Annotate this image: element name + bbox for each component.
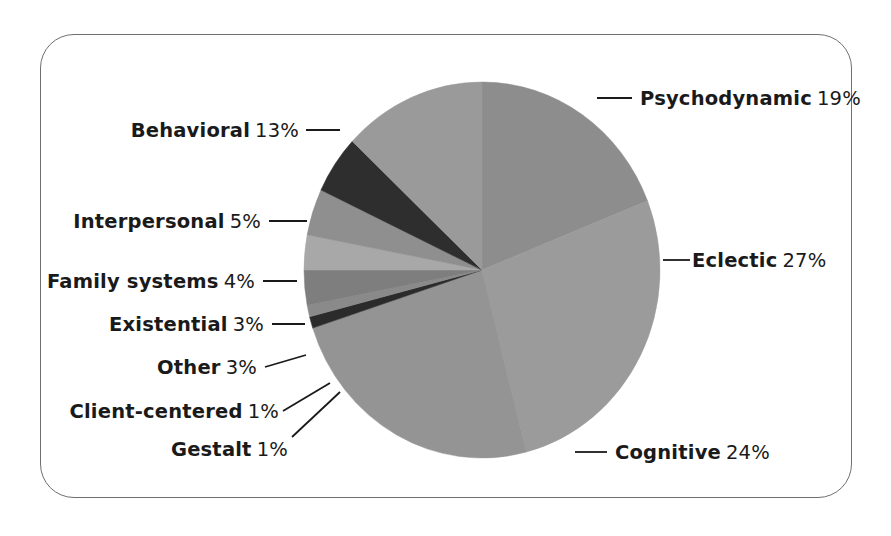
label-client-centered-name: Client-centered xyxy=(69,400,242,423)
label-interpersonal-pct: 5% xyxy=(230,210,261,233)
label-client-centered: Client-centered1% xyxy=(69,402,279,422)
label-interpersonal: Interpersonal5% xyxy=(73,212,261,232)
label-eclectic-pct: 27% xyxy=(783,249,827,272)
label-gestalt: Gestalt1% xyxy=(171,440,288,460)
label-family-systems-name: Family systems xyxy=(47,270,219,293)
label-gestalt-pct: 1% xyxy=(257,438,288,461)
label-cognitive-name: Cognitive xyxy=(615,441,721,464)
label-client-centered-pct: 1% xyxy=(248,400,279,423)
figure-page: Psychodynamic19% Eclectic27% Cognitive24… xyxy=(0,0,891,536)
label-psychodynamic-name: Psychodynamic xyxy=(640,87,812,110)
leader-line-gestalt xyxy=(292,392,340,437)
label-other-pct: 3% xyxy=(226,356,257,379)
label-other-name: Other xyxy=(157,356,221,379)
label-behavioral: Behavioral13% xyxy=(131,121,299,141)
label-family-systems-pct: 4% xyxy=(224,270,255,293)
label-existential: Existential3% xyxy=(109,315,264,335)
label-family-systems: Family systems4% xyxy=(47,272,255,292)
label-psychodynamic: Psychodynamic19% xyxy=(640,89,861,109)
label-behavioral-name: Behavioral xyxy=(131,119,250,142)
label-other: Other3% xyxy=(157,358,257,378)
label-gestalt-name: Gestalt xyxy=(171,438,252,461)
label-existential-name: Existential xyxy=(109,313,228,336)
label-behavioral-pct: 13% xyxy=(255,119,299,142)
label-cognitive-pct: 24% xyxy=(726,441,770,464)
label-psychodynamic-pct: 19% xyxy=(817,87,861,110)
leader-line-other xyxy=(265,355,306,367)
label-eclectic-name: Eclectic xyxy=(692,249,778,272)
label-cognitive: Cognitive24% xyxy=(615,443,770,463)
label-eclectic: Eclectic27% xyxy=(692,251,826,271)
pie-slices-group xyxy=(304,82,660,458)
label-existential-pct: 3% xyxy=(233,313,264,336)
label-interpersonal-name: Interpersonal xyxy=(73,210,224,233)
